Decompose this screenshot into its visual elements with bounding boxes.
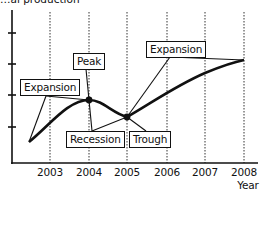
x-tick-2005: 2005 <box>114 166 140 178</box>
x-tick-2003: 2003 <box>37 166 63 178</box>
peak-marker <box>86 97 93 104</box>
trough-marker <box>124 114 131 121</box>
x-tick-2004: 2004 <box>76 166 102 178</box>
x-tick-2006: 2006 <box>154 166 180 178</box>
cycle-curve <box>29 60 244 142</box>
annotation-recession: Recession <box>66 131 125 148</box>
annotation-trough: Trough <box>129 131 171 148</box>
x-axis-label: Year <box>237 179 258 191</box>
x-tick-2008: 2008 <box>231 166 257 178</box>
annotation-expansion-right: Expansion <box>146 41 206 58</box>
annotation-expansion-left: Expansion <box>20 79 80 96</box>
annotation-peak: Peak <box>73 53 105 70</box>
x-tick-2007: 2007 <box>192 166 218 178</box>
